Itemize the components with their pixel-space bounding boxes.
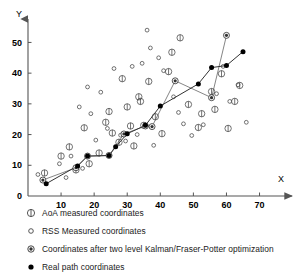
data-point-marker (75, 163, 80, 168)
data-point-marker (81, 166, 85, 170)
data-point-marker (125, 131, 130, 136)
data-point-marker (148, 46, 152, 50)
data-point-marker (89, 112, 93, 116)
data-point-marker (208, 88, 214, 94)
legend-label-aoa: AoA measured coordinates (42, 208, 144, 218)
data-point-marker (112, 67, 116, 71)
data-point-marker (224, 63, 229, 68)
data-point-marker (182, 122, 186, 126)
data-point-marker (69, 154, 73, 158)
data-point-marker (177, 35, 183, 41)
data-point-marker (124, 139, 128, 143)
data-point-marker (64, 176, 68, 180)
data-point-marker (116, 139, 122, 145)
data-point-marker (130, 64, 134, 68)
data-point-marker (127, 123, 133, 129)
data-point-marker (96, 150, 102, 156)
small-open-circle-icon (20, 225, 42, 237)
data-point-marker (228, 100, 232, 104)
data-point-marker (152, 114, 158, 120)
y-axis-label: Y (16, 9, 22, 19)
data-point-marker (36, 173, 40, 177)
data-point-marker (137, 98, 143, 104)
data-point-marker (225, 125, 231, 131)
data-point-marker (143, 123, 148, 128)
circle-with-vertical-tick-icon (20, 207, 42, 219)
series-path-2 (43, 35, 227, 180)
data-point-marker (241, 49, 246, 54)
legend-item-rss: RSS Measured coordinates (0, 222, 304, 240)
data-point-marker (41, 170, 47, 176)
data-point-marker (94, 138, 98, 142)
data-point-marker (196, 81, 201, 86)
data-point-marker (86, 161, 92, 167)
legend-label-rss: RSS Measured coordinates (42, 226, 146, 236)
data-point-marker (159, 130, 165, 136)
y-tick-label: 40 (12, 68, 22, 78)
data-point-marker (113, 144, 118, 149)
series-path-3 (46, 52, 243, 184)
y-tick-label: 20 (12, 130, 22, 140)
data-point-marker (66, 144, 72, 150)
data-point-marker (195, 124, 201, 130)
legend-label-real-path: Real path coordinates (42, 262, 125, 272)
data-point-marker (149, 124, 155, 130)
data-point-marker (58, 153, 64, 159)
data-point-marker (201, 123, 205, 127)
legend-label-optimized: Coordinates after two level Kalman/Frase… (42, 244, 274, 254)
data-point-marker (77, 105, 81, 109)
data-point-marker (185, 101, 191, 107)
data-point-marker (190, 134, 194, 138)
x-axis-label: X (278, 174, 284, 184)
filled-circle-icon (20, 261, 42, 273)
data-point-marker (85, 154, 90, 159)
data-point-marker (172, 78, 178, 84)
data-point-marker (209, 65, 214, 70)
data-point-marker (103, 119, 109, 125)
y-tick-label: 10 (12, 160, 22, 170)
y-axis-ticks: 01020304050 (12, 38, 32, 202)
data-point-marker (107, 153, 112, 158)
data-point-marker (86, 85, 90, 89)
legend-item-aoa: AoA measured coordinates (0, 204, 304, 222)
data-point-marker (209, 95, 215, 101)
y-tick-label: 30 (12, 99, 22, 109)
data-point-marker (177, 111, 181, 115)
chart-legend: AoA measured coordinates RSS Measured co… (0, 204, 304, 276)
data-point-marker (223, 32, 229, 38)
data-point-marker (131, 143, 137, 149)
series-markers (36, 28, 248, 186)
series-polylines (43, 35, 243, 183)
data-point-marker (169, 49, 175, 55)
circle-with-filled-center-icon (20, 243, 42, 255)
data-point-marker (135, 133, 139, 137)
data-point-marker (152, 143, 156, 147)
data-point-marker (232, 98, 238, 104)
data-point-marker (44, 181, 49, 186)
data-point-marker (124, 104, 130, 110)
axes-group: Y X (16, 9, 292, 196)
y-tick-label: 50 (12, 38, 22, 48)
data-point-marker (157, 56, 161, 60)
data-point-marker (81, 125, 87, 131)
data-point-marker (99, 90, 103, 94)
data-point-marker (146, 78, 152, 84)
scatter-chart-figure: Y X 01020304050 10203040506070 AoA measu… (0, 0, 304, 276)
data-point-marker (58, 162, 62, 166)
data-point-marker (140, 61, 144, 65)
legend-item-real-path: Real path coordinates (0, 258, 304, 276)
data-point-marker (109, 130, 115, 136)
y-tick-label: 0 (17, 191, 22, 201)
data-point-marker (244, 120, 248, 124)
data-point-marker (145, 28, 149, 32)
data-point-marker (165, 68, 171, 74)
data-point-marker (198, 110, 204, 116)
data-point-marker (162, 69, 166, 73)
legend-item-optimized: Coordinates after two level Kalman/Frase… (0, 240, 304, 258)
data-point-marker (215, 92, 219, 96)
data-point-marker (119, 75, 125, 81)
data-point-marker (212, 106, 218, 112)
data-point-marker (105, 127, 109, 131)
data-point-marker (218, 71, 224, 77)
data-point-marker (106, 108, 112, 114)
